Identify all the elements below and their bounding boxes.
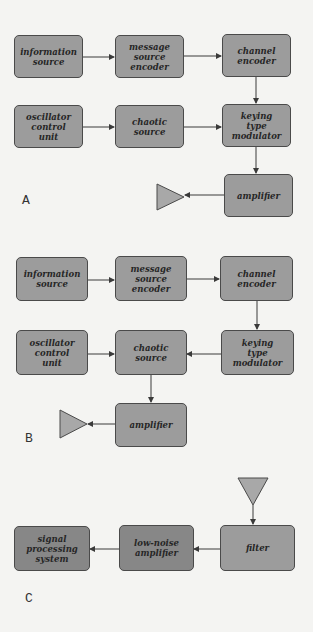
block-c-signal-processing-system: signal processing system bbox=[14, 526, 90, 571]
block-diagram: information source message source encode… bbox=[0, 0, 313, 632]
block-b-chaotic-source: chaotic source bbox=[115, 330, 187, 375]
receive-antenna-icon bbox=[238, 478, 268, 505]
block-b-oscillator-control-unit: oscillator control unit bbox=[16, 330, 88, 375]
block-b-message-source-encoder: message source encoder bbox=[115, 256, 187, 301]
transmit-antenna-icon bbox=[60, 410, 87, 438]
block-a-oscillator-control-unit: oscillator control unit bbox=[14, 105, 83, 148]
block-c-filter: filter bbox=[220, 525, 295, 571]
block-a-amplifier: amplifier bbox=[224, 174, 293, 217]
block-b-amplifier: amplifier bbox=[115, 403, 187, 447]
panel-label-b: B bbox=[25, 431, 33, 446]
block-a-information-source: information source bbox=[14, 35, 83, 78]
transmit-antenna-icon bbox=[157, 184, 184, 210]
panel-label-c: C bbox=[25, 591, 33, 606]
block-a-channel-encoder: channel encoder bbox=[222, 34, 291, 77]
panel-label-a: A bbox=[22, 193, 30, 208]
block-b-keying-type-modulator: keying type modulator bbox=[221, 330, 294, 375]
block-a-chaotic-source: chaotic source bbox=[115, 105, 184, 148]
block-a-keying-type-modulator: keying type modulator bbox=[222, 104, 291, 147]
block-b-channel-encoder: channel encoder bbox=[220, 256, 293, 301]
block-b-information-source: information source bbox=[16, 257, 88, 301]
block-a-message-source-encoder: message source encoder bbox=[115, 35, 184, 78]
block-c-low-noise-amplifier: low-noise amplifier bbox=[119, 525, 194, 571]
